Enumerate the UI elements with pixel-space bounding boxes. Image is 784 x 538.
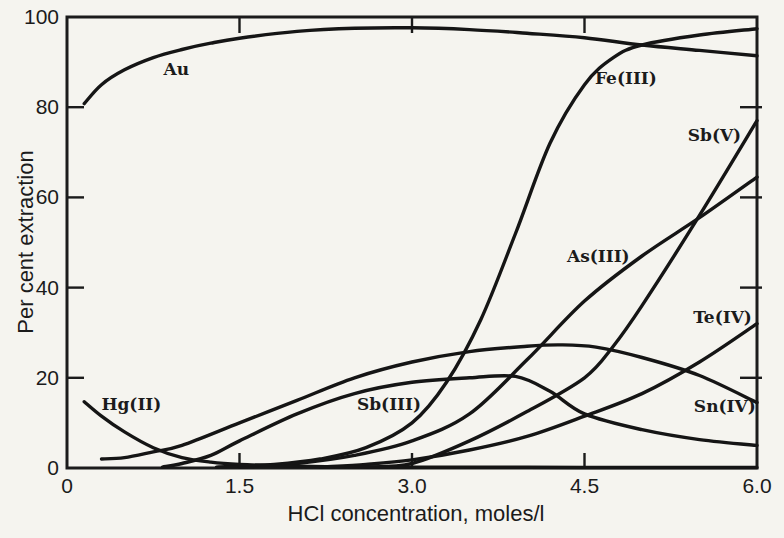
curve-label-au: Au <box>162 59 189 79</box>
curve-label-sniv: Sn(IV) <box>694 396 756 416</box>
y-tick-label-20: 20 <box>36 366 59 389</box>
curve-asiii <box>240 177 758 467</box>
x-tick-label-3.0: 3.0 <box>397 474 426 497</box>
x-axis-title: HCl concentration, moles/l <box>288 501 545 526</box>
y-tick-label-60: 60 <box>36 185 59 208</box>
curve-label-hgii: Hg(II) <box>101 394 161 414</box>
y-axis-title: Per cent extraction <box>13 150 38 333</box>
extraction-vs-hcl-chart: 01.53.04.56.0020406080100HCl concentrati… <box>0 0 784 538</box>
curve-label-teiv: Te(IV) <box>693 307 752 327</box>
y-tick-label-80: 80 <box>36 95 59 118</box>
x-tick-label-6.0: 6.0 <box>742 474 771 497</box>
y-tick-label-0: 0 <box>47 456 59 479</box>
curve-label-asiii: As(III) <box>566 246 630 266</box>
y-tick-label-40: 40 <box>36 276 59 299</box>
curve-sniv <box>102 345 758 459</box>
x-tick-label-1.5: 1.5 <box>225 474 254 497</box>
x-tick-label-0: 0 <box>61 474 73 497</box>
curve-label-sbv: Sb(V) <box>688 125 741 145</box>
curve-label-feiii: Fe(III) <box>595 68 657 88</box>
x-tick-label-4.5: 4.5 <box>570 474 599 497</box>
curve-label-sbiii: Sb(III) <box>357 394 421 414</box>
scanned-chart-page: 01.53.04.56.0020406080100HCl concentrati… <box>0 0 784 538</box>
y-tick-label-100: 100 <box>24 5 59 28</box>
